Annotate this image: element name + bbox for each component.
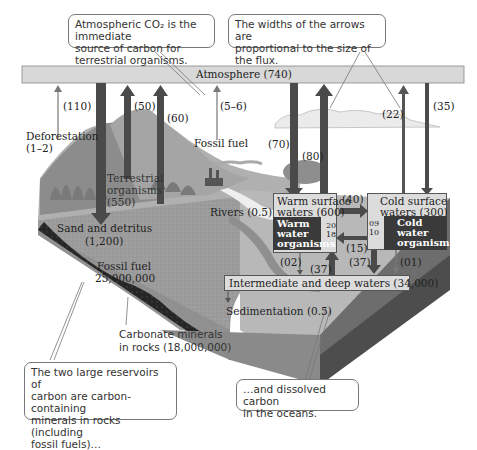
callout-line: The two large reservoirs of xyxy=(31,366,170,390)
cold-org-label-3: organisms xyxy=(397,237,455,249)
flux-label-5-6: (5–6) xyxy=(220,100,247,112)
carbonate-minerals-label: Carbonate minerals xyxy=(119,328,223,340)
warm-water-organisms-box: Warm water organisms xyxy=(273,217,321,250)
flux-label-02: (02) xyxy=(280,256,302,268)
atmosphere-label: Atmosphere (740) xyxy=(196,68,292,80)
flux-label-60: (60) xyxy=(167,112,189,124)
cold-out-value: 10 xyxy=(369,227,379,239)
flux-label-15: (15) xyxy=(346,242,368,254)
clouds xyxy=(275,109,440,128)
fossil-fuel-emission-label: Fossil fuel xyxy=(194,137,248,149)
deforestation-value: (1–2) xyxy=(26,142,53,154)
flux-label-80: (80) xyxy=(302,150,324,162)
callout-line: in the oceans. xyxy=(243,407,352,419)
callout-line: proportional to the size of the flux. xyxy=(235,42,379,66)
fossil-fuel-reservoir-label: Fossil fuel xyxy=(97,260,151,272)
sedimentation-label: Sedimentation (0.5) xyxy=(226,305,332,317)
flux-label-01: (01) xyxy=(400,256,422,268)
callout-line: minerals in rocks (including xyxy=(31,414,170,438)
warm-out-value: 18 xyxy=(326,229,336,241)
flux-label-70: (70) xyxy=(268,138,290,150)
sand-detritus-value: (1,200) xyxy=(85,235,123,247)
rivers-label: Rivers (0.5) xyxy=(210,206,272,218)
deforestation-label: Deforestation xyxy=(26,130,99,142)
callout-arrow-widths: The widths of the arrows are proportiona… xyxy=(228,14,386,48)
cold-water-organisms-box: Cold water organisms xyxy=(384,216,447,250)
deep-waters-box: Intermediate and deep waters (34,000) xyxy=(224,275,410,291)
callout-large-reservoirs: The two large reservoirs of carbon are c… xyxy=(24,362,177,420)
terrestrial-organisms-label: Terrestrial xyxy=(107,172,163,184)
callout-line: fossil fuels)… xyxy=(31,438,170,450)
fossil-fuel-reservoir-value: 25,000,000 xyxy=(95,272,155,284)
callout-line: carbon are carbon-containing xyxy=(31,390,170,414)
flux-label-22: (22) xyxy=(382,108,404,120)
flux-label-37-down: (37) xyxy=(349,256,371,268)
deep-waters-label: Intermediate and deep waters (34,000) xyxy=(229,277,438,289)
callout-dissolved-carbon: …and dissolved carbon in the oceans. xyxy=(236,379,359,411)
terrestrial-organisms-label-2: organisms xyxy=(107,184,162,196)
carbonate-minerals-value: in rocks (18,000,000) xyxy=(119,341,231,353)
callout-line: source of carbon for terrestrial organis… xyxy=(75,42,208,66)
sand-detritus-label: Sand and detritus xyxy=(57,222,152,234)
callout-line: Atmospheric CO₂ is the immediate xyxy=(75,18,208,42)
flux-label-110: (110) xyxy=(63,100,91,112)
flux-label-35: (35) xyxy=(433,100,455,112)
flux-label-50: (50) xyxy=(134,100,156,112)
callout-atmospheric-co2: Atmospheric CO₂ is the immediate source … xyxy=(68,14,215,48)
flux-label-37-up: (37) xyxy=(310,263,332,275)
callout-line: …and dissolved carbon xyxy=(243,383,352,407)
callout-line: The widths of the arrows are xyxy=(235,18,379,42)
terrestrial-organisms-value: (550) xyxy=(107,196,135,208)
